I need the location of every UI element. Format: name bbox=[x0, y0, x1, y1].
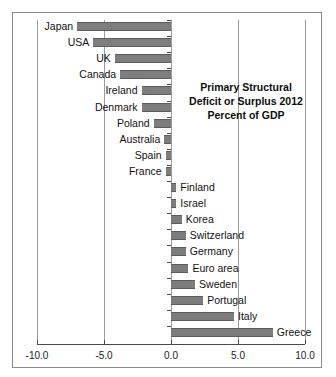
chart-title-line-3: Percent of GDP bbox=[176, 108, 316, 122]
bar-label: USA bbox=[0, 37, 89, 48]
x-axis-tick-label: 10.0 bbox=[275, 350, 335, 361]
bar bbox=[154, 119, 171, 128]
bar-label: Switzerland bbox=[190, 230, 310, 241]
bar bbox=[142, 86, 171, 95]
chart-figure: -10.0-5.00.05.010.0JapanUSAUKCanadaIrela… bbox=[0, 0, 336, 377]
category-tick bbox=[167, 326, 171, 327]
category-tick bbox=[167, 294, 171, 295]
x-axis-tick-label: -10.0 bbox=[7, 350, 67, 361]
bar-label: UK bbox=[0, 53, 111, 64]
bar bbox=[171, 296, 203, 305]
x-axis-tick bbox=[171, 340, 172, 344]
chart-title-line-1: Primary Structural bbox=[176, 80, 316, 94]
bar bbox=[142, 103, 171, 112]
bar bbox=[166, 151, 171, 160]
category-tick bbox=[167, 101, 171, 102]
x-axis-tick bbox=[37, 340, 38, 344]
category-tick bbox=[167, 229, 171, 230]
bar bbox=[93, 38, 171, 47]
bar-label: Ireland bbox=[18, 85, 138, 96]
category-tick bbox=[167, 68, 171, 69]
bar bbox=[171, 280, 195, 289]
category-tick bbox=[167, 36, 171, 37]
bar-label: Japan bbox=[0, 21, 73, 32]
category-tick bbox=[167, 197, 171, 198]
bar-label: Finland bbox=[180, 182, 300, 193]
bar-label: Korea bbox=[186, 214, 306, 225]
x-axis-tick-label: -5.0 bbox=[74, 350, 134, 361]
plot-area: -10.0-5.00.05.010.0JapanUSAUKCanadaIrela… bbox=[0, 0, 336, 377]
bar-label: Canada bbox=[0, 69, 116, 80]
bar bbox=[77, 22, 171, 31]
category-tick bbox=[167, 52, 171, 53]
bar bbox=[166, 167, 171, 176]
x-axis-tick bbox=[238, 340, 239, 344]
bar-label: Germany bbox=[190, 246, 310, 257]
bar bbox=[115, 54, 171, 63]
bar-label: Sweden bbox=[199, 279, 319, 290]
bar-label: Australia bbox=[40, 134, 160, 145]
category-tick bbox=[167, 165, 171, 166]
x-axis-tick bbox=[305, 340, 306, 344]
category-tick bbox=[167, 213, 171, 214]
bar bbox=[171, 328, 273, 337]
bar bbox=[171, 199, 176, 208]
category-tick bbox=[167, 181, 171, 182]
bar bbox=[171, 215, 182, 224]
category-tick bbox=[167, 20, 171, 21]
bar-label: Israel bbox=[180, 198, 300, 209]
bar bbox=[171, 247, 186, 256]
bar-label: Spain bbox=[42, 150, 162, 161]
x-axis-tick-label: 0.0 bbox=[141, 350, 201, 361]
bar-label: Greece bbox=[277, 327, 336, 338]
bar-label: Denmark bbox=[18, 102, 138, 113]
x-axis-tick-label: 5.0 bbox=[208, 350, 268, 361]
bar-label: Poland bbox=[30, 118, 150, 129]
bar-label: Euro area bbox=[192, 263, 312, 274]
bar bbox=[171, 231, 186, 240]
chart-title: Primary Structural Deficit or Surplus 20… bbox=[176, 80, 316, 122]
bar-label: Italy bbox=[238, 311, 336, 322]
x-axis-line bbox=[37, 344, 305, 345]
bar-label: Portugal bbox=[207, 295, 327, 306]
category-tick bbox=[167, 278, 171, 279]
bar bbox=[171, 312, 234, 321]
bar bbox=[171, 264, 188, 273]
bar bbox=[164, 135, 171, 144]
category-tick bbox=[167, 117, 171, 118]
category-tick bbox=[167, 84, 171, 85]
x-axis-tick bbox=[104, 340, 105, 344]
category-tick bbox=[167, 310, 171, 311]
chart-title-line-2: Deficit or Surplus 2012 bbox=[176, 94, 316, 108]
category-tick bbox=[167, 262, 171, 263]
category-tick bbox=[167, 149, 171, 150]
bar bbox=[171, 183, 176, 192]
bar-label: France bbox=[42, 166, 162, 177]
bar bbox=[120, 70, 171, 79]
category-tick bbox=[167, 245, 171, 246]
category-tick bbox=[167, 133, 171, 134]
